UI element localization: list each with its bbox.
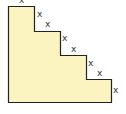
side-label: x <box>37 9 43 19</box>
side-label: x <box>71 44 77 54</box>
staircase-shape <box>9 7 112 103</box>
side-label: x <box>97 68 103 78</box>
side-label: x <box>88 58 94 68</box>
staircase-diagram: x x x x x x x x <box>0 0 126 114</box>
side-label: x <box>45 19 51 29</box>
side-label: x <box>113 85 119 95</box>
side-label: x <box>19 0 25 5</box>
side-label: x <box>62 33 68 43</box>
